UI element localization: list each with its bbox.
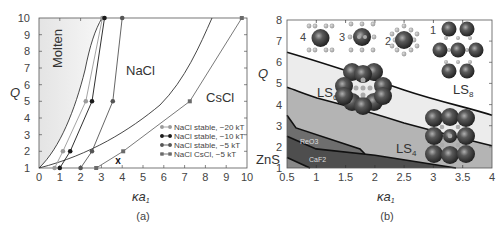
region-label-caf2: CaF2 [309,156,326,163]
svg-text:0: 0 [36,171,42,183]
inset-label-4: 4 [300,31,306,43]
svg-text:6: 6 [24,79,30,91]
x-axis-label-b: κa1 [377,189,395,204]
svg-text:7: 7 [24,62,30,74]
region-label-reo3: ReO3 [300,138,318,145]
svg-text:4: 4 [119,171,125,183]
svg-text:3.5: 3.5 [455,171,470,183]
x-axis-label-a: κa1 [132,189,150,204]
legend-item: NaCl stable, −20 kT [160,123,245,132]
inset-label-1: 1 [430,24,436,36]
svg-text:8: 8 [24,45,30,57]
svg-text:9: 9 [24,29,30,41]
svg-text:NaCl stable, −20 kT: NaCl stable, −20 kT [174,123,245,132]
svg-text:NaCl stable, −5 kT: NaCl stable, −5 kT [174,141,240,150]
legend-item: NaCl CsCl, −5 kT [160,150,236,159]
svg-text:1: 1 [313,171,319,183]
svg-text:3: 3 [24,129,30,141]
figure: 1 2 3 4 5 6 7 8 9 10 Q [0,0,504,228]
svg-text:4: 4 [276,99,282,111]
svg-text:2: 2 [372,171,378,183]
y-axis-label-b: Q [258,66,268,81]
caption-a: (a) [136,210,149,222]
y-axis-label-a: Q [10,85,20,100]
svg-text:3: 3 [98,171,104,183]
svg-text:NaCl CsCl, −5 kT: NaCl CsCl, −5 kT [174,150,236,159]
region-label-molten: Molten [50,29,65,68]
svg-text:10: 10 [18,12,30,24]
svg-text:5: 5 [276,77,282,89]
region-label-cscl: CsCl [206,90,234,105]
svg-text:10: 10 [241,171,253,183]
svg-text:9: 9 [223,171,229,183]
svg-text:8: 8 [276,14,282,26]
svg-text:NaCl stable, −10 kT: NaCl stable, −10 kT [174,132,245,141]
svg-text:4: 4 [489,171,495,183]
ls4-cluster-icon [425,108,475,164]
svg-text:5: 5 [140,171,146,183]
svg-text:1.5: 1.5 [338,171,353,183]
svg-text:1: 1 [24,162,30,174]
svg-text:0.5: 0.5 [279,171,294,183]
x-marker: x [115,155,121,166]
svg-text:3: 3 [430,171,436,183]
panel-b: 1 2 3 4 5 6 7 8 Q 0.5 [256,14,495,222]
legend-item: NaCl stable, −10 kT [160,132,245,141]
svg-text:2: 2 [24,145,30,157]
svg-text:1: 1 [57,171,63,183]
svg-text:2: 2 [78,171,84,183]
svg-text:3: 3 [276,120,282,132]
svg-text:7: 7 [182,171,188,183]
inset-label-3: 3 [339,31,345,43]
region-label-nacl: NaCl [126,63,155,78]
svg-text:8: 8 [202,171,208,183]
svg-text:2.5: 2.5 [396,171,411,183]
svg-text:7: 7 [276,35,282,47]
legend-a: NaCl stable, −20 kT NaCl stable, −10 kT … [160,123,245,159]
panel-a: 1 2 3 4 5 6 7 8 9 10 Q [10,12,253,222]
svg-text:4: 4 [24,112,30,124]
svg-text:6: 6 [276,56,282,68]
caption-b: (b) [380,210,393,222]
svg-text:6: 6 [161,171,167,183]
region-label-zns: ZnS [256,152,280,167]
legend-item: NaCl stable, −5 kT [160,141,240,150]
svg-text:5: 5 [24,95,30,107]
